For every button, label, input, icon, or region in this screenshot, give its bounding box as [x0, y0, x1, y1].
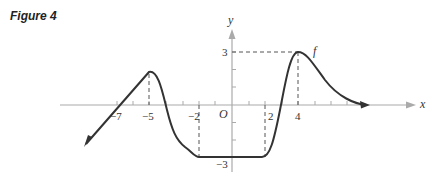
curve-left-arrow-icon	[84, 135, 92, 147]
x-tick-neg5: −5	[142, 110, 154, 122]
y-tick-neg3: −3	[216, 158, 228, 170]
origin-label: O	[219, 107, 228, 121]
x-tick-2: 2	[268, 110, 274, 122]
function-graph: y x f O −7 −5 −2 2 4 3 −3	[0, 0, 447, 181]
y-axis-label: y	[227, 13, 234, 27]
y-axis	[229, 29, 237, 172]
x-tick-neg7: −7	[110, 110, 122, 122]
x-tick-4: 4	[295, 110, 301, 122]
y-tick-3: 3	[222, 46, 228, 58]
x-tick-neg2: −2	[188, 110, 200, 122]
curve-right-arrow-icon	[360, 101, 370, 109]
x-axis-label: x	[419, 97, 426, 111]
y-axis-arrow-icon	[229, 29, 236, 39]
x-axis-arrow-icon	[406, 102, 416, 109]
function-label: f	[313, 44, 318, 58]
